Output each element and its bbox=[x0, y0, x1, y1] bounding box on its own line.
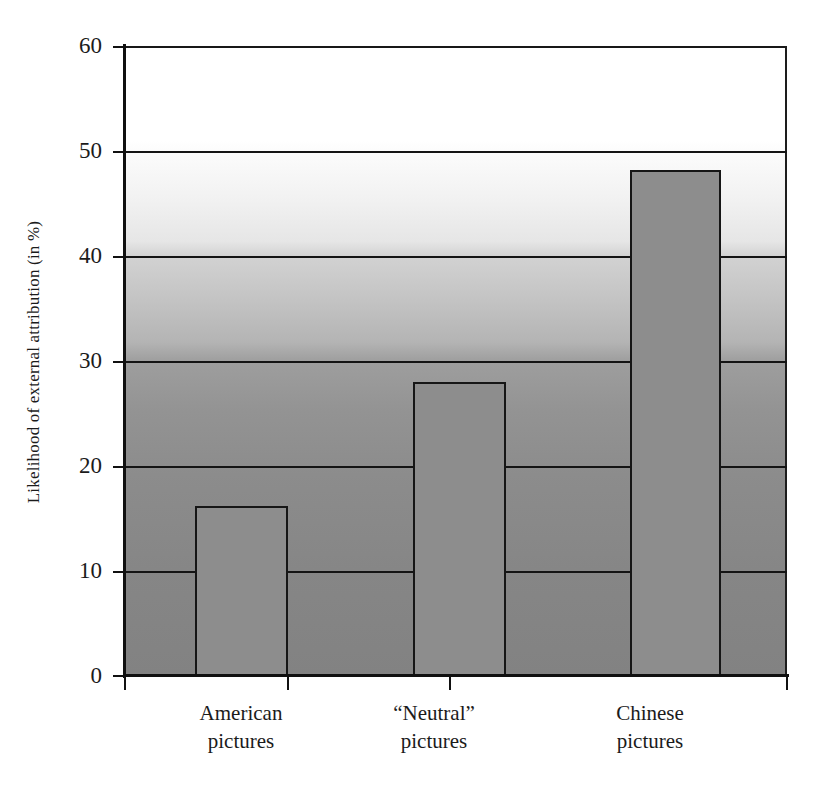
y-tick-label-0: 0 bbox=[56, 664, 102, 687]
x-label-line-2: pictures bbox=[550, 728, 750, 756]
x-label-line-2: pictures bbox=[141, 728, 341, 756]
bar-neutral-pictures[interactable] bbox=[413, 382, 506, 676]
y-axis-title: Likelihood of external attribution (in %… bbox=[24, 92, 44, 632]
y-tick-label-60: 60 bbox=[56, 34, 102, 57]
y-tick-label-40: 40 bbox=[56, 244, 102, 267]
x-axis-line bbox=[123, 674, 789, 677]
bar-chinese-pictures[interactable] bbox=[630, 170, 721, 676]
plot-border-top bbox=[125, 46, 787, 48]
y-tick-label-30: 30 bbox=[56, 349, 102, 372]
x-label-line-1: American bbox=[141, 700, 341, 728]
y-tick-label-50: 50 bbox=[56, 139, 102, 162]
x-label-line-1: “Neutral” bbox=[334, 700, 534, 728]
x-label-line-1: Chinese bbox=[550, 700, 750, 728]
x-label-neutral-pictures: “Neutral” pictures bbox=[334, 700, 534, 755]
y-tick-label-10: 10 bbox=[56, 559, 102, 582]
gridline-50 bbox=[125, 151, 787, 153]
x-tick-mark-2 bbox=[449, 676, 451, 690]
bar-american-pictures[interactable] bbox=[195, 506, 288, 676]
plot-area bbox=[125, 46, 787, 676]
x-tick-mark-right bbox=[786, 676, 788, 690]
y-axis-line bbox=[123, 44, 126, 678]
x-label-line-2: pictures bbox=[334, 728, 534, 756]
x-label-american-pictures: American pictures bbox=[141, 700, 341, 755]
bar-chart: Likelihood of external attribution (in %… bbox=[0, 0, 820, 785]
y-tick-label-20: 20 bbox=[56, 454, 102, 477]
x-label-chinese-pictures: Chinese pictures bbox=[550, 700, 750, 755]
x-tick-mark-1 bbox=[287, 676, 289, 690]
x-tick-mark-left bbox=[124, 676, 126, 690]
